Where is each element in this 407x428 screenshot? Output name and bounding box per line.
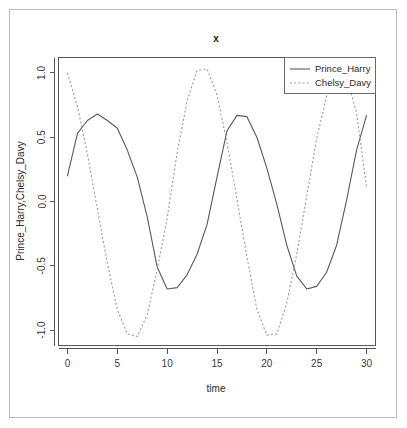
legend-label-chelsy-davy: Chelsy_Davy xyxy=(315,77,371,88)
y-tick-label: 1.0 xyxy=(37,66,48,80)
chart-legend[interactable]: Prince_Harry Chelsy_Davy xyxy=(285,58,376,94)
legend-label-prince-harry: Prince_Harry xyxy=(315,63,371,74)
x-tick-label: 25 xyxy=(311,358,323,369)
x-tick-label: 10 xyxy=(162,358,174,369)
y-axis-title: Prince_Harry,Chelsy_Davy xyxy=(15,141,26,260)
data-series-group xyxy=(67,69,366,336)
x-axis-tick-labels: 051015202530 xyxy=(65,358,373,369)
x-tick-label: 0 xyxy=(65,358,71,369)
y-tick-label: 0.0 xyxy=(37,194,48,208)
x-tick-label: 20 xyxy=(261,358,273,369)
plot-title: x xyxy=(213,33,219,44)
y-axis-tick-labels: 1.00.50.0-0.5-1.0 xyxy=(37,66,48,339)
series-line-chelsy-davy xyxy=(67,69,366,336)
x-tick-label: 15 xyxy=(211,358,223,369)
x-tick-label: 30 xyxy=(361,358,373,369)
y-axis-ticks xyxy=(50,73,55,330)
y-tick-label: -1.0 xyxy=(37,321,48,339)
y-tick-label: 0.5 xyxy=(37,130,48,144)
series-line-prince-harry xyxy=(67,114,366,289)
x-tick-label: 5 xyxy=(115,358,121,369)
x-axis-ticks xyxy=(67,349,366,354)
plot-frame xyxy=(59,58,376,346)
y-tick-label: -0.5 xyxy=(37,257,48,275)
chart-canvas: 051015202530 1.00.50.0-0.5-1.0 x time Pr… xyxy=(0,0,407,428)
plot-window: 051015202530 1.00.50.0-0.5-1.0 x time Pr… xyxy=(0,0,407,428)
x-axis-title: time xyxy=(207,383,226,394)
